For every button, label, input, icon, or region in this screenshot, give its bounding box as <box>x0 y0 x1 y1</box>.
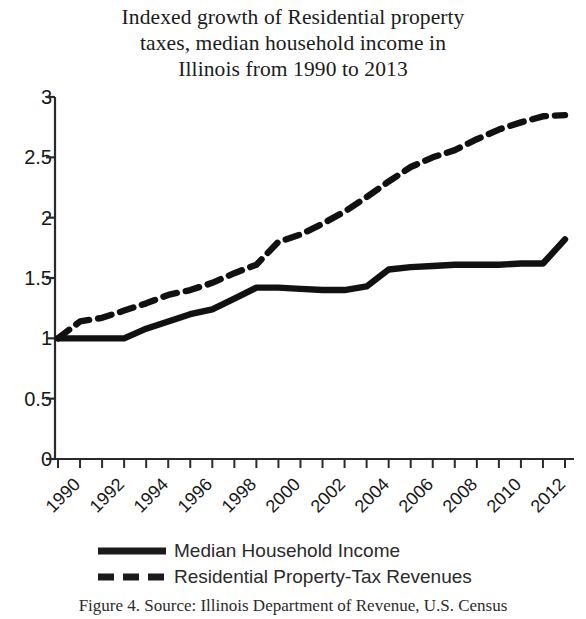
chart-title-line-3: Illinois from 1990 to 2013 <box>40 56 546 82</box>
x-tick-label-7: 2004 <box>350 474 393 517</box>
figure-container: Indexed growth of Residential property t… <box>0 0 586 619</box>
series-line-median-household-income <box>58 239 565 338</box>
legend-solid-line-icon <box>96 538 174 564</box>
x-axis-tick-labels: 1990199219941996199820002002200420062008… <box>0 466 586 536</box>
chart-title-line-1: Indexed growth of Residential property <box>40 4 546 30</box>
chart-title: Indexed growth of Residential property t… <box>40 4 546 82</box>
x-tick-label-5: 2000 <box>262 474 305 517</box>
chart-title-line-2: taxes, median household income in <box>40 30 546 56</box>
series-line-residential-property-tax-revenues <box>58 115 565 338</box>
legend-item-residential-property-tax-revenues: Residential Property-Tax Revenues <box>96 564 516 590</box>
legend-item-median-household-income: Median Household Income <box>96 538 516 564</box>
chart-legend: Median Household Income Residential Prop… <box>96 538 516 590</box>
x-tick-label-0: 1990 <box>42 474 85 517</box>
plot-area <box>0 88 586 473</box>
x-tick-label-2: 1994 <box>130 474 173 517</box>
legend-label-0: Median Household Income <box>174 540 400 562</box>
x-tick-label-9: 2008 <box>438 474 481 517</box>
x-tick-label-6: 2002 <box>306 474 349 517</box>
legend-label-1: Residential Property-Tax Revenues <box>174 566 472 588</box>
legend-dashed-line-icon <box>96 564 174 590</box>
figure-caption: Figure 4. Source: Illinois Department of… <box>0 596 586 616</box>
x-tick-label-4: 1998 <box>218 474 261 517</box>
x-tick-label-3: 1996 <box>174 474 217 517</box>
x-tick-label-10: 2010 <box>483 474 526 517</box>
plot-svg <box>0 88 586 473</box>
x-tick-label-8: 2006 <box>394 474 437 517</box>
x-tick-label-11: 2012 <box>527 474 570 517</box>
x-tick-label-1: 1992 <box>86 474 129 517</box>
